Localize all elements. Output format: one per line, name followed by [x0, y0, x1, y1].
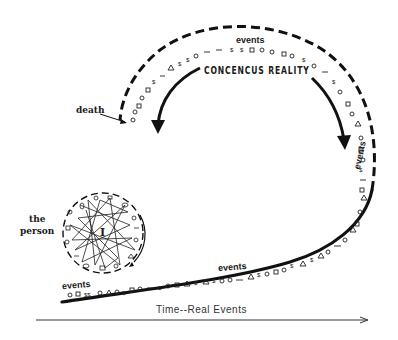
svg-text:$: $ [178, 61, 182, 67]
svg-text:$: $ [152, 79, 156, 85]
event-glyphs: $$ $ $ $ $ $ $ $ $ $ [68, 47, 367, 298]
svg-text:$: $ [302, 57, 306, 63]
svg-text:$: $ [240, 47, 244, 53]
svg-text:$: $ [257, 272, 261, 278]
person-label: the person [20, 213, 54, 237]
svg-text:$$: $$ [84, 292, 91, 298]
arrowhead-right-icon [337, 135, 351, 150]
svg-text:$: $ [332, 79, 336, 85]
arrow-left-curve [158, 68, 200, 125]
person-label-line1: the [20, 213, 54, 225]
death-arrowhead-icon [120, 119, 127, 124]
events-label-top: events [236, 35, 265, 45]
diagram-title: CONCENCUS REALITY [204, 65, 310, 76]
svg-text:$: $ [310, 257, 314, 263]
life-path-solid [62, 190, 372, 302]
person-center-glyph: I [100, 226, 105, 239]
death-label: death [76, 104, 105, 116]
svg-text:$: $ [290, 263, 294, 269]
arrowhead-left-icon [151, 120, 165, 134]
life-path-dashed [120, 26, 374, 190]
svg-text:$: $ [230, 47, 234, 53]
arrow-right-curve [312, 78, 344, 140]
person-label-line2: person [20, 225, 54, 237]
time-axis-label: Time--Real Events [156, 304, 247, 315]
diagram-canvas: $$ $ $ $ $ $ $ $ $ $ [0, 0, 398, 340]
events-label-middle: events [218, 261, 247, 273]
svg-text:$: $ [186, 57, 190, 63]
